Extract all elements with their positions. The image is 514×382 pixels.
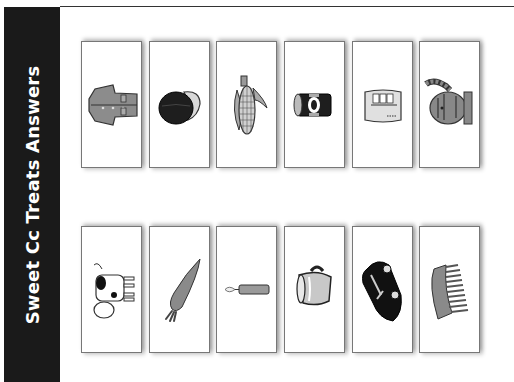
top-rule-divider	[60, 6, 514, 7]
picture-card-cup	[284, 226, 345, 353]
page-title: Sweet Cc Treats Answers	[22, 65, 43, 324]
cup-icon	[289, 255, 341, 325]
picture-card-cow	[81, 226, 142, 353]
carrot-icon	[154, 255, 206, 325]
corn-icon	[221, 70, 273, 140]
picture-card-carrot	[149, 226, 210, 353]
sidebar-title-bar: Sweet Cc Treats Answers	[4, 7, 60, 382]
cat-icon	[424, 70, 476, 140]
picture-card-comb	[419, 226, 480, 353]
picture-card-cap	[149, 41, 210, 168]
cow-icon	[86, 255, 138, 325]
picture-card-candle	[216, 226, 277, 353]
picture-card-can	[284, 41, 345, 168]
car-icon	[357, 255, 409, 325]
picture-card-coat	[81, 41, 142, 168]
picture-card-corn	[216, 41, 277, 168]
cocoa-icon	[357, 70, 409, 140]
can-icon	[289, 70, 341, 140]
coat-icon	[86, 70, 138, 140]
picture-card-cat	[419, 41, 480, 168]
comb-icon	[424, 255, 476, 325]
candle-icon	[221, 255, 273, 325]
picture-card-car	[352, 226, 413, 353]
picture-card-cocoa	[352, 41, 413, 168]
cap-icon	[154, 70, 206, 140]
